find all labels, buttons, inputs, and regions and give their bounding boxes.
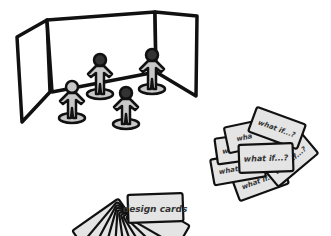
design-cards-fan: design cards <box>72 193 189 236</box>
screen-panel-left <box>17 20 50 122</box>
screen-panel-right <box>155 12 197 96</box>
illustration: design cards what if...? what if...? wha… <box>0 0 331 236</box>
what-if-card-top: what if...? <box>239 143 294 173</box>
figure-person <box>113 87 139 129</box>
design-cards-label: design cards <box>123 204 188 214</box>
what-if-cards-pile: what if...? what if...? what if...? wha … <box>210 107 318 201</box>
folding-screen <box>17 12 197 122</box>
svg-text:what if...?: what if...? <box>244 153 289 164</box>
